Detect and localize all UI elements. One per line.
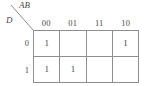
kmap-cell-r0-c00[interactable]: 1 xyxy=(34,31,60,57)
row-header-0: 0 xyxy=(14,30,31,57)
column-header-00: 00 xyxy=(33,16,60,30)
row-variable-label: D xyxy=(6,15,13,26)
column-header-row: 00 01 11 10 xyxy=(33,16,139,30)
karnaugh-map: AB D 00 01 11 10 0 1 1 1 1 1 xyxy=(0,0,146,86)
column-header-10: 10 xyxy=(113,16,140,30)
kmap-cell-r0-c11[interactable] xyxy=(87,31,113,57)
kmap-cell-r0-c10[interactable]: 1 xyxy=(113,31,139,57)
kmap-cell-r0-c01[interactable] xyxy=(60,31,86,57)
kmap-row-0: 1 1 xyxy=(34,31,139,57)
kmap-cell-r1-c01[interactable]: 1 xyxy=(60,57,86,83)
row-header-1: 1 xyxy=(14,57,31,84)
kmap-row-1: 1 1 xyxy=(34,57,139,83)
column-header-11: 11 xyxy=(86,16,113,30)
kmap-cell-r1-c00[interactable]: 1 xyxy=(34,57,60,83)
kmap-corner-header: AB D xyxy=(0,0,34,31)
kmap-cell-r1-c10[interactable] xyxy=(113,57,139,83)
kmap-grid: 1 1 1 1 xyxy=(33,30,139,83)
kmap-cell-r1-c11[interactable] xyxy=(87,57,113,83)
column-header-01: 01 xyxy=(60,16,87,30)
column-variable-label: AB xyxy=(19,0,30,11)
row-header-column: 0 1 xyxy=(14,30,31,83)
